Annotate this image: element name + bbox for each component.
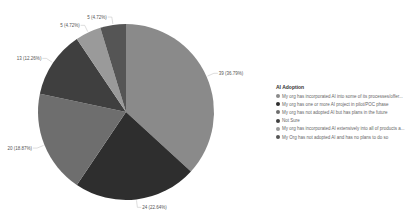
legend-label: Not Sure xyxy=(282,118,300,123)
legend-label: My org has not adopted AI but has plans … xyxy=(282,110,388,115)
legend-title: AI Adoption xyxy=(276,84,406,90)
legend-label: My Org has not adopted AI and has no pla… xyxy=(282,135,388,140)
legend-item[interactable]: My org has one or more AI project in pil… xyxy=(276,100,406,108)
legend-item[interactable]: My org has not adopted AI but has plans … xyxy=(276,108,406,116)
legend-label: My org has one or more AI project in pil… xyxy=(282,102,389,107)
data-label: 39 (36.79%) xyxy=(219,71,244,76)
legend-item[interactable]: My org has incorporated AI into some of … xyxy=(276,92,406,100)
leader-line xyxy=(137,200,142,207)
legend-label: My org has incorporated AI extensively i… xyxy=(282,126,405,131)
leader-line xyxy=(108,17,113,24)
data-label: 5 (4.72%) xyxy=(60,23,80,28)
data-label: 5 (4.72%) xyxy=(87,15,107,20)
leader-line xyxy=(33,145,43,148)
legend-dot-icon xyxy=(276,135,280,139)
legend-label: My org has incorporated AI into some of … xyxy=(282,94,403,99)
legend: AI Adoption My org has incorporated AI i… xyxy=(276,84,406,141)
leader-line xyxy=(207,73,217,76)
legend-item[interactable]: My Org has not adopted AI and has no pla… xyxy=(276,133,406,141)
legend-dot-icon xyxy=(276,110,280,114)
legend-dot-icon xyxy=(276,102,280,106)
data-label: 20 (18.87%) xyxy=(8,146,33,151)
data-label: 13 (12.26%) xyxy=(17,56,42,61)
legend-item[interactable]: Not Sure xyxy=(276,117,406,125)
data-label: 24 (22.64%) xyxy=(142,205,167,210)
leader-line xyxy=(42,58,52,62)
legend-dot-icon xyxy=(276,119,280,123)
legend-item[interactable]: My org has incorporated AI extensively i… xyxy=(276,125,406,133)
legend-dot-icon xyxy=(276,94,280,98)
leader-line xyxy=(81,25,88,31)
legend-dot-icon xyxy=(276,127,280,131)
